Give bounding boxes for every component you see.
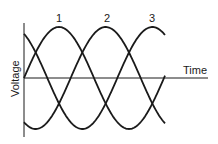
phase-2-label: 2 [104,12,110,24]
phase-1-label: 1 [56,12,62,24]
three-phase-diagram: 1 2 3 Time Voltage [0,0,218,144]
phase-3-label: 3 [149,12,155,24]
x-axis-label: Time [183,64,207,76]
y-axis-label: Voltage [9,60,21,97]
